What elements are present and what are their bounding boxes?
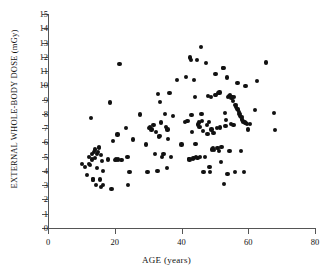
scatter-point — [159, 120, 163, 124]
scatter-point — [125, 155, 129, 159]
x-tick-mark — [315, 228, 316, 234]
scatter-point — [246, 127, 250, 131]
scatter-point — [163, 112, 167, 116]
y-tick-label: 6 — [24, 138, 48, 147]
scatter-point — [197, 125, 201, 129]
scatter-point — [153, 152, 157, 156]
scatter-point — [264, 60, 268, 64]
scatter-point — [161, 152, 165, 156]
y-tick-label: 11 — [24, 67, 48, 76]
scatter-point — [158, 100, 162, 104]
scatter-point — [199, 112, 203, 116]
y-tick-label: 14 — [24, 24, 48, 33]
scatter-point — [193, 142, 197, 146]
scatter-point — [225, 75, 229, 79]
y-tick-label: 9 — [24, 96, 48, 105]
y-tick-label: 4 — [24, 167, 48, 176]
y-tick-label: 7 — [24, 124, 48, 133]
y-tick-label: 12 — [24, 53, 48, 62]
x-tick-mark — [248, 228, 249, 234]
x-tick-label: 80 — [300, 238, 330, 247]
x-tick-label: 60 — [233, 238, 263, 247]
y-tick-label: 13 — [24, 39, 48, 48]
y-tick-label: 15 — [24, 10, 48, 19]
x-axis-title: AGE (years) — [0, 255, 333, 265]
y-tick-label: 3 — [24, 181, 48, 190]
scatter-point — [179, 142, 183, 146]
x-tick-label: 20 — [100, 238, 130, 247]
scatter-point — [116, 157, 120, 161]
scatter-point — [171, 114, 175, 118]
scatter-plot-figure: 0123456789101112131415 020406080 AGE (ye… — [0, 0, 333, 273]
scatter-point — [83, 165, 87, 169]
y-tick-label: 2 — [24, 195, 48, 204]
y-axis-title: EXTERNAL WHOLE-BODY DOSE (mGy) — [9, 9, 19, 209]
scatter-point — [185, 119, 189, 123]
scatter-point — [198, 155, 202, 159]
y-tick-label: 10 — [24, 81, 48, 90]
scatter-point — [199, 45, 203, 49]
scatter-point — [205, 132, 209, 136]
scatter-point — [233, 170, 237, 174]
scatter-point — [101, 169, 105, 173]
y-axis-line — [48, 14, 49, 229]
scatter-point — [93, 156, 97, 160]
scatter-point — [144, 142, 148, 146]
scatter-point — [131, 137, 135, 141]
plot-area — [48, 14, 315, 228]
y-tick-label: 5 — [24, 153, 48, 162]
scatter-point — [155, 169, 159, 173]
scatter-point — [203, 155, 207, 159]
scatter-point — [217, 149, 221, 153]
x-tick-mark — [182, 228, 183, 234]
scatter-point — [227, 149, 231, 153]
scatter-point — [201, 170, 205, 174]
scatter-point — [193, 95, 197, 99]
scatter-point — [117, 62, 121, 66]
scatter-point — [138, 112, 142, 116]
scatter-point — [167, 91, 171, 95]
scatter-point — [111, 139, 115, 143]
scatter-point — [201, 129, 205, 133]
scatter-point — [243, 84, 247, 88]
x-tick-label: 0 — [33, 238, 63, 247]
scatter-point — [211, 131, 215, 135]
scatter-point — [231, 123, 235, 127]
scatter-point — [115, 132, 119, 136]
scatter-point — [151, 123, 155, 127]
x-tick-mark — [115, 228, 116, 234]
scatter-point — [218, 125, 222, 129]
y-tick-label: 0 — [24, 224, 48, 233]
scatter-point — [235, 81, 239, 85]
scatter-point — [106, 157, 110, 161]
scatter-point — [239, 149, 243, 153]
x-tick-label: 40 — [167, 238, 197, 247]
x-tick-mark — [48, 228, 49, 234]
scatter-point — [213, 72, 217, 76]
scatter-point — [190, 130, 194, 134]
scatter-point — [221, 66, 225, 70]
scatter-point — [157, 134, 161, 138]
scatter-point — [165, 127, 169, 131]
scatter-point — [98, 177, 102, 181]
y-tick-label: 8 — [24, 110, 48, 119]
scatter-point — [217, 90, 221, 94]
scatter-point — [165, 166, 169, 170]
scatter-point — [207, 120, 211, 124]
y-tick-label: 1 — [24, 210, 48, 219]
scatter-point — [189, 113, 193, 117]
scatter-point — [225, 172, 229, 176]
scatter-point — [108, 100, 112, 104]
scatter-point — [109, 187, 113, 191]
scatter-point — [223, 124, 227, 128]
